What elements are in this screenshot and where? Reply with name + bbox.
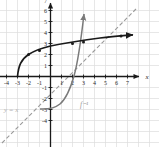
x-tick-label: 3 <box>82 80 85 86</box>
x-tick-label: 5 <box>104 80 107 86</box>
y-tick-label: -2 <box>42 96 47 102</box>
x-tick-label: -2 <box>26 80 31 86</box>
annotation-y-equals-x: y = x <box>3 106 19 114</box>
plot-background <box>0 0 159 147</box>
data-point <box>120 35 123 38</box>
y-tick-label: -4 <box>42 118 47 124</box>
data-point <box>82 40 85 43</box>
coordinate-plane-svg: -4 -3 -2 -1 1 2 3 4 5 6 7 -4 -3 -2 -1 1 … <box>0 0 159 147</box>
x-tick-label: 1 <box>60 80 63 86</box>
x-tick-label: -3 <box>15 80 20 86</box>
x-tick-label: 6 <box>115 80 118 86</box>
data-point <box>71 42 74 45</box>
y-tick-label: 5 <box>44 19 47 25</box>
x-tick-label: 7 <box>126 80 129 86</box>
y-tick-label: 4 <box>44 30 47 36</box>
y-tick-label: 7 <box>44 0 47 4</box>
y-tick-label: 6 <box>44 8 47 14</box>
graph-figure: -4 -3 -2 -1 1 2 3 4 5 6 7 -4 -3 -2 -1 1 … <box>0 0 159 147</box>
data-point <box>38 49 41 52</box>
x-tick-label: -4 <box>4 80 9 86</box>
y-tick-label: 3 <box>44 41 47 47</box>
x-tick-label: 4 <box>93 80 96 86</box>
data-point <box>27 53 30 56</box>
y-tick-label: 1 <box>44 63 47 69</box>
y-tick-label: 2 <box>44 52 47 58</box>
y-tick-label: -1 <box>42 85 47 91</box>
annotation-f-inverse: f⁻¹ <box>80 100 89 109</box>
